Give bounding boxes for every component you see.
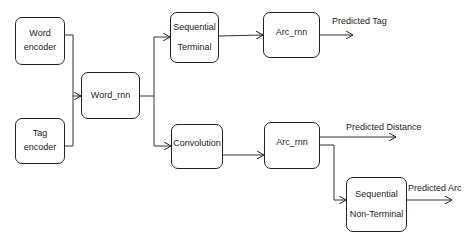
seq-nonterminal-line2: Non-Terminal bbox=[350, 205, 404, 225]
edge-to-seq-nonterminal bbox=[320, 145, 346, 200]
seq-terminal-node: Sequential Terminal bbox=[170, 12, 219, 63]
predicted-tag-label: Predicted Tag bbox=[332, 16, 387, 26]
convolution-node: Convolution bbox=[171, 124, 223, 169]
edge-tag-encoder bbox=[65, 96, 73, 146]
seq-terminal-line2: Terminal bbox=[177, 38, 211, 58]
word-encoder-line1: Word bbox=[29, 27, 50, 41]
tag-encoder-node: Tag encoder bbox=[15, 118, 65, 164]
arc-rnn-bottom-node: Arc_rnn bbox=[264, 122, 320, 169]
word-rnn-node: Word_rnn bbox=[81, 72, 140, 119]
edge-seq-terminal-to-arc-rnn bbox=[219, 35, 263, 36]
arc-rnn-top-label: Arc_rnn bbox=[276, 26, 308, 40]
architecture-diagram: Word encoder Tag encoder Word_rnn Sequen… bbox=[0, 0, 465, 243]
arc-rnn-bottom-label: Arc_rnn bbox=[276, 136, 308, 150]
arc-rnn-top-node: Arc_rnn bbox=[263, 12, 320, 58]
predicted-arc-label: Predicted Arc bbox=[408, 183, 462, 193]
tag-encoder-line2: encoder bbox=[24, 141, 57, 155]
predicted-distance-label: Predicted Distance bbox=[346, 122, 422, 132]
convolution-label: Convolution bbox=[173, 137, 221, 151]
seq-nonterminal-node: Sequential Non-Terminal bbox=[346, 177, 407, 232]
seq-nonterminal-line1: Sequential bbox=[355, 185, 398, 205]
edge-to-convolution bbox=[154, 96, 171, 146]
tag-encoder-line1: Tag bbox=[33, 127, 48, 141]
edge-word-encoder bbox=[65, 35, 73, 96]
word-encoder-node: Word encoder bbox=[15, 17, 65, 65]
seq-terminal-line1: Sequential bbox=[173, 18, 216, 38]
edge-to-seq-terminal bbox=[154, 37, 170, 96]
word-rnn-label: Word_rnn bbox=[91, 89, 130, 103]
word-encoder-line2: encoder bbox=[24, 41, 57, 55]
